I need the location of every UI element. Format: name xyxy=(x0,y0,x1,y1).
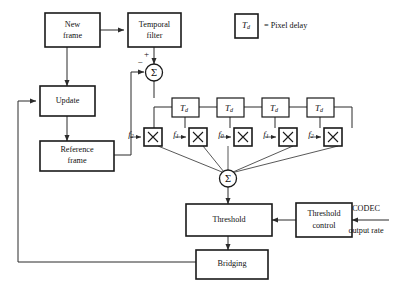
summing-junction-top-sign-plus: + xyxy=(144,49,149,59)
block-temporal-filter-label-line1: Temporal xyxy=(139,20,171,29)
block-threshold[interactable]: Threshold xyxy=(186,204,272,236)
delay-box-1[interactable]: Td xyxy=(172,98,199,117)
block-temporal-filter-label-line2: filter xyxy=(147,31,163,40)
block-new-frame-label-line1: New xyxy=(65,20,81,29)
block-diagram-svg: New frame Temporal filter Update Referen… xyxy=(0,0,398,287)
block-new-frame[interactable]: New frame xyxy=(45,13,100,47)
multiplier-2[interactable]: f1 xyxy=(173,128,207,146)
block-new-frame-label-line2: frame xyxy=(63,31,82,40)
legend-text: = Pixel delay xyxy=(264,21,308,30)
wire-bridging-feedback-to-update xyxy=(18,101,196,262)
multiplier-3-coefficient: f0 xyxy=(218,129,224,140)
block-bridging[interactable]: Bridging xyxy=(196,250,268,279)
summing-junction-bottom-symbol: Σ xyxy=(225,174,231,184)
block-reference-frame-label-line1: Reference xyxy=(60,145,94,154)
block-threshold-control[interactable]: Threshold control xyxy=(296,203,352,237)
summing-junction-top-symbol: Σ xyxy=(151,68,157,78)
block-threshold-label: Threshold xyxy=(212,215,245,224)
block-threshold-control-label-line1: Threshold xyxy=(307,209,340,218)
block-reference-frame-label-line2: frame xyxy=(67,156,86,165)
multiplier-5[interactable]: f2 xyxy=(308,128,342,146)
diagram-canvas: New frame Temporal filter Update Referen… xyxy=(0,0,398,287)
external-input-line1: CODEC xyxy=(352,204,380,213)
block-threshold-control-label-line2: control xyxy=(312,221,336,230)
external-input-codec: CODEC output rate xyxy=(348,204,384,235)
summing-junction-top[interactable]: Σ + − xyxy=(137,49,162,81)
block-temporal-filter[interactable]: Temporal filter xyxy=(128,13,181,47)
multiplier-3[interactable]: f0 xyxy=(218,128,252,146)
wire-sum-top-to-delayline xyxy=(154,81,172,128)
delay-box-4[interactable]: Td xyxy=(307,98,334,117)
summing-junction-bottom[interactable]: Σ xyxy=(220,170,237,187)
multiplier-1[interactable]: f2 xyxy=(128,128,162,146)
wire-multipliers-to-sum-bottom xyxy=(158,146,338,172)
block-bridging-label: Bridging xyxy=(217,259,246,268)
block-update-label: Update xyxy=(56,96,80,105)
summing-junction-top-sign-minus: − xyxy=(137,57,142,67)
multiplier-2-coefficient: f1 xyxy=(173,129,179,140)
delay-box-3[interactable]: Td xyxy=(262,98,289,117)
block-reference-frame[interactable]: Reference frame xyxy=(40,141,114,171)
external-input-line2: output rate xyxy=(348,226,384,235)
block-update[interactable]: Update xyxy=(40,86,95,116)
wire-referenceframe-to-sum-top xyxy=(114,72,144,155)
legend: Td = Pixel delay xyxy=(235,14,308,38)
multiplier-4[interactable]: f1 xyxy=(263,128,297,146)
delay-box-2[interactable]: Td xyxy=(217,98,244,117)
multiplier-5-coefficient: f2 xyxy=(308,129,314,140)
multiplier-4-coefficient: f1 xyxy=(263,129,269,140)
